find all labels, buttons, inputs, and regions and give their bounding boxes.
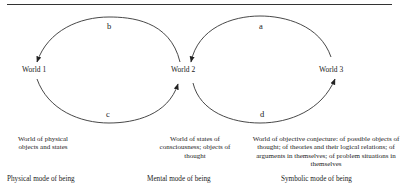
world-1-description: World of physical objects and states: [10, 135, 76, 152]
world-2-label: World 2: [171, 65, 195, 74]
world-3-description: World of objective conjecture: of possib…: [250, 135, 402, 168]
arrow-label-c: c: [106, 109, 110, 119]
world-1-mode: Physical mode of being: [7, 175, 75, 183]
arrow-label-b: b: [107, 21, 111, 31]
arrow-label-d: d: [260, 109, 265, 119]
world-3-label: World 3: [319, 65, 343, 74]
world-2-mode: Mental mode of being: [147, 175, 211, 183]
world-1-label: World 1: [22, 65, 46, 74]
world-3-mode: Symbolic mode of being: [281, 175, 352, 183]
arrow-label-a: a: [259, 21, 263, 31]
world-2-description: World of states of consciousness; object…: [150, 135, 240, 160]
